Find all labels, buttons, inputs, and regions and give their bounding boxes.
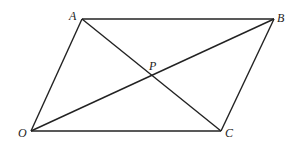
diagram-lines bbox=[0, 0, 297, 148]
label-a: A bbox=[69, 10, 76, 22]
edge-oa bbox=[31, 19, 82, 131]
label-p: P bbox=[149, 60, 156, 72]
diagonal-ac bbox=[82, 19, 221, 131]
label-c: C bbox=[225, 127, 233, 139]
parallelogram-diagram: A B C O P bbox=[0, 0, 297, 148]
label-b: B bbox=[277, 12, 284, 24]
label-o: O bbox=[18, 127, 27, 139]
edge-bc bbox=[221, 19, 274, 131]
